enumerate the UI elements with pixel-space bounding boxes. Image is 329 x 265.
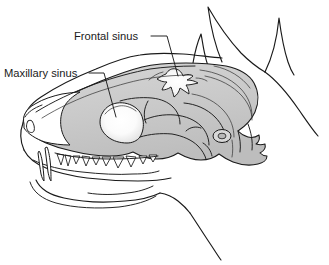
- skull-diagram-svg: Frontal sinus Maxillary sinus: [0, 0, 329, 265]
- ear-far: [193, 34, 208, 66]
- lower-canine-tooth: [38, 151, 44, 181]
- throat-outline: [160, 193, 221, 260]
- mandible: [30, 180, 160, 208]
- ear-canal-inner: [218, 133, 226, 139]
- upper-canine-tooth: [45, 147, 51, 181]
- label-maxillary-sinus: Maxillary sinus: [4, 67, 78, 79]
- anatomical-figure: Frontal sinus Maxillary sinus: [0, 0, 329, 265]
- label-frontal-sinus: Frontal sinus: [74, 30, 138, 42]
- neck-outline: [265, 72, 318, 136]
